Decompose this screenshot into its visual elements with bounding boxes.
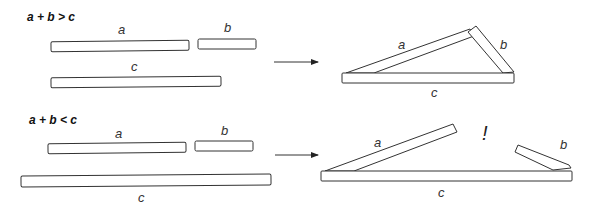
stick-c-label: c	[131, 59, 138, 74]
triangle-label-b: b	[500, 37, 507, 52]
exclamation-mark: !	[482, 122, 488, 144]
failed-label-b: b	[560, 137, 567, 152]
stick-b	[198, 39, 256, 49]
condition-label: a + b < c	[29, 113, 77, 127]
stick-a-label: a	[115, 126, 122, 141]
triangle-stick-c	[342, 73, 514, 83]
stick-b	[195, 141, 253, 151]
stick-c-label: c	[138, 190, 145, 205]
stick-b-label: b	[224, 20, 231, 35]
stick-c	[51, 76, 221, 88]
failed-stick-a	[325, 124, 457, 171]
separate-sticks: a b c	[21, 123, 271, 205]
failed-label-a: a	[374, 135, 381, 150]
failed-stick-c	[321, 171, 572, 181]
failed-label-c: c	[438, 185, 445, 200]
stick-b-label: b	[221, 123, 228, 138]
failed-triangle: a b c !	[321, 122, 572, 200]
separate-sticks: a b c	[51, 20, 256, 88]
condition-label: a + b > c	[27, 10, 75, 24]
triangle-inequality-diagram: a + b > c a b c a b c a + b < c	[0, 0, 595, 209]
stick-a	[48, 142, 186, 153]
stick-a	[51, 40, 189, 51]
assembled-triangle: a b c	[342, 26, 514, 100]
triangle-label-a: a	[398, 37, 405, 52]
panel-sum-greater: a + b > c a b c a b c	[27, 10, 514, 100]
triangle-label-c: c	[431, 85, 438, 100]
triangle-stick-a	[346, 29, 474, 73]
panel-sum-less: a + b < c a b c a b c !	[21, 113, 572, 205]
stick-a-label: a	[118, 22, 125, 37]
stick-c	[21, 174, 271, 187]
